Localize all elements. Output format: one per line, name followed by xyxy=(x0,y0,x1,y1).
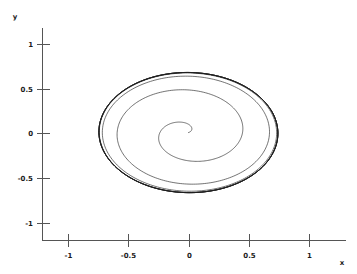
y-axis-label: y xyxy=(13,13,18,21)
y-tick-label-neg1: -1 xyxy=(25,220,33,228)
x-tick-label-0_5: 0.5 xyxy=(243,252,256,260)
x-tick-label-neg0_5: -0.5 xyxy=(121,252,136,260)
y-tick-label-0_5: 0.5 xyxy=(21,86,34,94)
y-tick-label-1: 1 xyxy=(28,41,33,49)
x-axis-label: x xyxy=(340,259,345,267)
phase-trajectory-curve xyxy=(99,72,278,192)
phase-portrait-plot: 1 0.5 0 -0.5 -1 -1 -0.5 0 0.5 1 y x xyxy=(0,0,357,274)
chart-screenshot: 1 0.5 0 -0.5 -1 -1 -0.5 0 0.5 1 y x xyxy=(0,0,357,274)
x-tick-label-1: 1 xyxy=(307,252,312,260)
x-tick-label-0: 0 xyxy=(187,252,192,260)
y-tick-label-neg0_5: -0.5 xyxy=(18,175,33,183)
x-tick-label-neg1: -1 xyxy=(65,252,73,260)
y-tick-marks xyxy=(37,45,50,224)
y-tick-label-0: 0 xyxy=(28,130,33,138)
